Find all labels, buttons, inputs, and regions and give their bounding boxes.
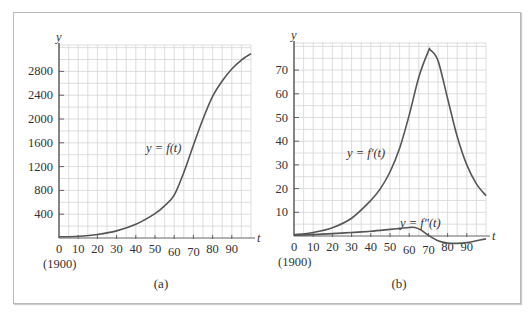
x-tick-label: 60 <box>168 245 181 259</box>
x-tick-label: 70 <box>187 245 200 259</box>
y-tick-label: 50 <box>276 111 289 125</box>
y-tick-label: 70 <box>276 63 289 77</box>
chart-canvas: yt0102030405060708090(1900)4008001200160… <box>0 0 529 319</box>
y-axis-label: y <box>54 30 62 44</box>
x-tick-label: 40 <box>130 242 143 256</box>
y-tick-label: 1200 <box>28 160 53 174</box>
x-tick-label: 0 <box>56 242 62 256</box>
y-tick-label: 60 <box>276 87 289 101</box>
y-tick-label: 400 <box>34 207 53 221</box>
series-label-f-double-prime: y = f″(t) <box>398 216 441 230</box>
y-tick-label: 2000 <box>28 112 53 126</box>
y-tick-label: 40 <box>276 134 289 148</box>
x-tick-label: 20 <box>91 242 104 256</box>
x-tick-label: 10 <box>72 242 85 256</box>
y-tick-label: 20 <box>276 182 289 196</box>
y-tick-label: 2800 <box>28 64 53 78</box>
x-tick-label: 10 <box>307 240 320 254</box>
chart-panel-b: yt0102030405060708090(1900)1020304050607… <box>276 28 497 291</box>
y-tick-label: 2400 <box>28 88 53 102</box>
x-tick-label: 40 <box>365 240 378 254</box>
y-tick-label: 1600 <box>28 136 53 150</box>
x-tick-label: 0 <box>291 240 297 254</box>
panel-caption: (a) <box>154 276 168 291</box>
y-tick-label: 10 <box>276 205 289 219</box>
series-label-f-prime: y = f′(t) <box>345 146 385 160</box>
panel-caption: (b) <box>391 276 406 291</box>
grid <box>294 43 486 236</box>
x-tick-label: 20 <box>326 240 339 254</box>
y-tick-label: 800 <box>34 183 53 197</box>
y-axis-label: y <box>289 28 297 42</box>
x-tick-label: 30 <box>345 240 358 254</box>
x-tick-label: 90 <box>226 242 239 256</box>
chart-panel-a: yt0102030405060708090(1900)4008001200160… <box>28 30 261 291</box>
origin-year-label: (1900) <box>278 255 311 269</box>
origin-year-label: (1900) <box>43 257 76 271</box>
x-tick-label: 80 <box>206 242 219 256</box>
x-tick-label: 50 <box>149 242 162 256</box>
x-axis-label: t <box>492 229 496 243</box>
x-axis-label: t <box>257 231 261 245</box>
x-tick-label: 30 <box>110 242 123 256</box>
series-label-f: y = f(t) <box>144 141 182 155</box>
x-tick-label: 70 <box>422 243 435 257</box>
x-tick-label: 50 <box>384 240 397 254</box>
y-tick-label: 30 <box>276 158 289 172</box>
x-tick-label: 60 <box>403 243 416 257</box>
